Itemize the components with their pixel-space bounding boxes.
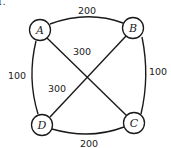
node-a: A: [30, 20, 51, 41]
node-d-label: D: [37, 119, 47, 132]
edge-label-b-d: 300: [48, 83, 66, 94]
edge-b-c: [141, 37, 146, 114]
node-a-label: A: [35, 24, 44, 37]
edge-label-d-c: 200: [80, 138, 98, 148]
node-d: D: [32, 115, 53, 136]
edge-label-a-c: 300: [73, 46, 91, 57]
graph-diagram: 1. 200 100 200 100 300 300 A B C D: [0, 0, 171, 148]
problem-number: 1.: [0, 0, 6, 7]
edge-a-d: [32, 41, 38, 114]
edge-label-a-b: 200: [78, 5, 96, 16]
edge-label-b-c: 100: [149, 66, 167, 77]
node-b: B: [123, 18, 144, 39]
node-b-label: B: [128, 22, 137, 35]
edge-a-b: [50, 17, 123, 24]
node-c: C: [124, 113, 145, 134]
edge-d-c: [52, 127, 124, 134]
edge-label-a-d: 100: [8, 70, 26, 81]
node-c-label: C: [130, 117, 139, 130]
